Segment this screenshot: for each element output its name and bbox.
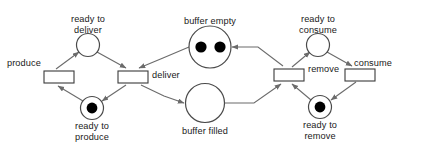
transition-produce[interactable] — [44, 71, 74, 83]
token-ready-to-remove-1 — [315, 102, 326, 113]
transition-label-produce: produce — [7, 58, 67, 69]
arc-remove-to-buffer-empty — [232, 47, 283, 66]
transition-label-deliver: deliver — [152, 70, 212, 81]
place-buffer-filled[interactable] — [186, 84, 225, 123]
place-label-buffer-filled: buffer filled — [155, 126, 255, 137]
arc-buffer-filled-to-remove — [225, 84, 281, 103]
arc-deliver-to-buffer-filled — [141, 85, 184, 103]
transition-deliver[interactable] — [118, 71, 148, 83]
place-ready-to-deliver[interactable] — [77, 34, 100, 57]
arc-buffer-empty-to-deliver — [139, 47, 189, 68]
place-label-buffer-empty: buffer empty — [160, 16, 260, 27]
token-buffer-empty-1 — [195, 41, 206, 52]
place-label-ready-to-deliver: ready to deliver — [48, 14, 128, 35]
arc-ready-to-remove-to-remove — [292, 84, 311, 100]
place-label-ready-to-consume: ready to consume — [278, 14, 358, 35]
arc-ready-to-produce-to-produce — [58, 86, 83, 101]
transition-label-consume: consume — [354, 58, 419, 69]
arc-ready-to-deliver-to-deliver — [97, 52, 126, 68]
place-label-ready-to-produce: ready to produce — [52, 121, 132, 142]
arc-consume-to-ready-to-remove — [331, 82, 356, 100]
arc-deliver-to-ready-to-produce — [102, 85, 126, 101]
transition-remove[interactable] — [274, 69, 304, 81]
petri-net-diagram: ready to deliver ready to produce buffer… — [0, 0, 421, 150]
place-label-ready-to-remove: ready to remove — [280, 120, 360, 141]
place-ready-to-consume[interactable] — [307, 34, 330, 57]
token-ready-to-produce-1 — [87, 103, 98, 114]
token-buffer-empty-2 — [214, 41, 225, 52]
